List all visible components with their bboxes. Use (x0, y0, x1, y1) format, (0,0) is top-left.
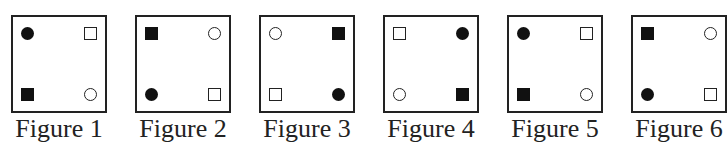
filled-circle-icon (456, 27, 469, 40)
figure-5: Figure 5 (507, 15, 603, 113)
open-square-icon (84, 27, 97, 40)
figure-frame (11, 15, 107, 113)
figure-2: Figure 2 (135, 15, 231, 113)
open-square-icon (580, 27, 593, 40)
figure-frame (135, 15, 231, 113)
filled-circle-icon (21, 27, 34, 40)
filled-circle-icon (145, 88, 158, 101)
filled-circle-icon (641, 88, 654, 101)
open-square-icon (269, 88, 282, 101)
filled-square-icon (21, 88, 34, 101)
figure-4: Figure 4 (383, 15, 479, 113)
open-circle-icon (269, 27, 282, 40)
filled-square-icon (456, 88, 469, 101)
open-square-icon (393, 27, 406, 40)
figure-6: Figure 6 (631, 15, 727, 113)
figure-frame (507, 15, 603, 113)
filled-circle-icon (517, 27, 530, 40)
open-square-icon (704, 88, 717, 101)
figure-caption: Figure 6 (623, 113, 728, 145)
figure-caption: Figure 2 (127, 113, 239, 145)
open-circle-icon (704, 27, 717, 40)
open-circle-icon (84, 88, 97, 101)
filled-circle-icon (332, 88, 345, 101)
open-circle-icon (393, 88, 406, 101)
open-circle-icon (580, 88, 593, 101)
figure-caption: Figure 3 (251, 113, 363, 145)
filled-square-icon (641, 27, 654, 40)
figure-caption: Figure 4 (375, 113, 487, 145)
open-square-icon (208, 88, 221, 101)
figure-caption: Figure 5 (499, 113, 611, 145)
figure-1: Figure 1 (11, 15, 107, 113)
figure-3: Figure 3 (259, 15, 355, 113)
figure-frame (631, 15, 727, 113)
filled-square-icon (332, 27, 345, 40)
filled-square-icon (145, 27, 158, 40)
filled-square-icon (517, 88, 530, 101)
figure-frame (383, 15, 479, 113)
figure-frame (259, 15, 355, 113)
figure-caption: Figure 1 (3, 113, 115, 145)
open-circle-icon (208, 27, 221, 40)
